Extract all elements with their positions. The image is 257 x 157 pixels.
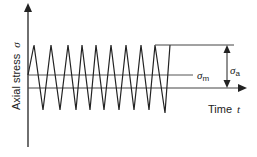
x-axis-arrow-icon (238, 84, 247, 92)
x-axis-label: Time t (208, 103, 241, 115)
stress-waveform (28, 45, 170, 113)
arrow-down-icon (224, 80, 231, 88)
y-axis-label: Axial stress σ (10, 42, 22, 110)
stress-time-diagram: Axial stress σ σm σa Time t (0, 0, 257, 157)
amplitude-label: σa (230, 64, 240, 78)
time-axis (28, 84, 247, 92)
y-axis-arrow-icon (24, 3, 32, 12)
arrow-up-icon (224, 45, 231, 53)
mean-stress-label: σm (197, 69, 209, 83)
